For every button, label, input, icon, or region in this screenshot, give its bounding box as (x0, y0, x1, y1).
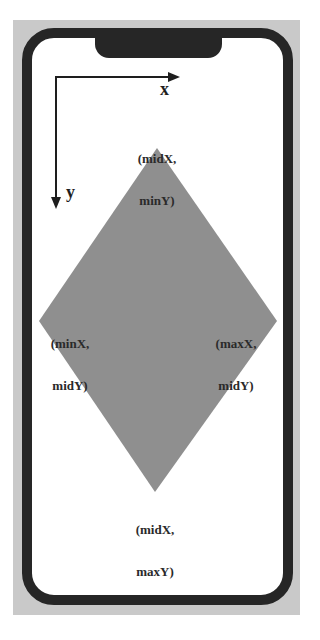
y-axis-arrow-icon (51, 76, 61, 209)
vertex-label-top: (midX, minY) (122, 124, 192, 222)
vertex-label-right-line2: midY) (203, 379, 269, 393)
vertex-label-left-line2: midY) (40, 379, 100, 393)
vertex-label-right-line1: (maxX, (203, 337, 269, 351)
vertex-label-bottom-line2: maxY) (120, 565, 190, 579)
vertex-label-left: (minX, midY) (40, 309, 100, 407)
vertex-label-bottom-line1: (midX, (120, 523, 190, 537)
vertex-label-top-line2: minY) (122, 194, 192, 208)
vertex-label-right: (maxX, midY) (203, 309, 269, 407)
vertex-label-left-line1: (minX, (40, 337, 100, 351)
vertex-label-top-line1: (midX, (122, 152, 192, 166)
x-axis-label: x (160, 80, 169, 98)
vertex-label-bottom: (midX, maxY) (120, 495, 190, 593)
y-axis-label: y (66, 183, 75, 201)
